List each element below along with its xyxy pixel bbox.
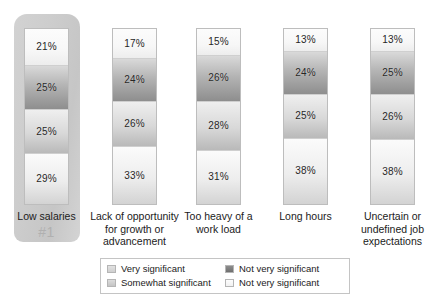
bar-segment[interactable]: 24% xyxy=(113,59,156,101)
category-label-line: undefined job xyxy=(348,223,437,236)
chart-column[interactable]: 13%24%25%38%Long hours xyxy=(283,0,328,250)
stacked-bar[interactable]: 21%25%25%29% xyxy=(24,28,69,205)
segment-value-label: 33% xyxy=(124,171,144,181)
legend-swatch-icon xyxy=(107,265,116,273)
chart-column[interactable]: 21%25%25%29%Low salaries#1 xyxy=(24,0,69,250)
category-label-line: expectations xyxy=(348,235,437,248)
segment-value-label: 25% xyxy=(36,83,56,93)
legend-label: Somewhat significant xyxy=(121,278,211,288)
stacked-bar[interactable]: 13%25%26%38% xyxy=(370,28,415,205)
segment-value-label: 31% xyxy=(208,172,228,182)
category-label-line: Lack of opportunity xyxy=(90,210,179,223)
bar-segment[interactable]: 33% xyxy=(113,147,156,204)
stacked-bar[interactable]: 15%26%28%31% xyxy=(196,28,241,205)
bar-segment[interactable]: 21% xyxy=(25,29,68,66)
bar-segment[interactable]: 13% xyxy=(371,29,414,52)
legend-item[interactable]: Not very significant xyxy=(225,276,343,290)
category-label: Lack of opportunityfor growth oradvancem… xyxy=(90,210,179,248)
segment-value-label: 24% xyxy=(124,75,144,85)
bar-segment[interactable]: 29% xyxy=(25,154,68,204)
segment-value-label: 21% xyxy=(36,42,56,52)
category-label-line: Long hours xyxy=(261,210,350,223)
bar-segment[interactable]: 17% xyxy=(113,29,156,59)
bar-segment[interactable]: 28% xyxy=(197,102,240,151)
segment-value-label: 26% xyxy=(124,119,144,129)
legend-label: Not very significant xyxy=(239,278,319,288)
legend-label: Very significant xyxy=(121,264,185,274)
legend-swatch-icon xyxy=(225,265,234,273)
stacked-bar[interactable]: 17%24%26%33% xyxy=(112,28,157,205)
segment-value-label: 28% xyxy=(208,121,228,131)
chart-columns: 21%25%25%29%Low salaries#117%24%26%33%La… xyxy=(0,0,447,250)
legend-item[interactable]: Not very significant xyxy=(225,262,343,276)
segment-value-label: 26% xyxy=(208,73,228,83)
category-label: Low salaries xyxy=(2,210,91,223)
legend-label: Not very significant xyxy=(239,264,319,274)
bar-segment[interactable]: 26% xyxy=(113,102,156,148)
bar-segment[interactable]: 15% xyxy=(197,29,240,56)
bar-segment[interactable]: 25% xyxy=(25,110,68,154)
legend-item[interactable]: Somewhat significant xyxy=(107,276,225,290)
chart-column[interactable]: 15%26%28%31%Too heavy of awork load xyxy=(196,0,241,250)
bar-segment[interactable]: 25% xyxy=(284,95,327,139)
chart-column[interactable]: 13%25%26%38%Uncertain orundefined jobexp… xyxy=(370,0,415,250)
bar-segment[interactable]: 38% xyxy=(371,140,414,204)
segment-value-label: 15% xyxy=(208,37,228,47)
category-label-line: Uncertain or xyxy=(348,210,437,223)
segment-value-label: 26% xyxy=(382,112,402,122)
chart-column[interactable]: 17%24%26%33%Lack of opportunityfor growt… xyxy=(112,0,157,250)
stacked-bar[interactable]: 13%24%25%38% xyxy=(283,28,328,205)
category-label-line: advancement xyxy=(90,235,179,248)
category-label-line: Too heavy of a xyxy=(174,210,263,223)
category-label-line: Low salaries xyxy=(2,210,91,223)
chart-legend: Very significantNot very significantSome… xyxy=(100,258,350,294)
category-label-line: for growth or xyxy=(90,223,179,236)
legend-swatch-icon xyxy=(107,279,116,287)
segment-value-label: 17% xyxy=(124,39,144,49)
category-label: Too heavy of awork load xyxy=(174,210,263,235)
segment-value-label: 29% xyxy=(36,174,56,184)
segment-value-label: 25% xyxy=(382,68,402,78)
category-label: Uncertain orundefined jobexpectations xyxy=(348,210,437,248)
bar-segment[interactable]: 13% xyxy=(284,29,327,52)
legend-swatch-icon xyxy=(225,279,234,287)
rank-badge: #1 xyxy=(2,225,91,239)
bar-segment[interactable]: 31% xyxy=(197,151,240,204)
segment-value-label: 13% xyxy=(295,35,315,45)
bar-segment[interactable]: 25% xyxy=(371,52,414,95)
bar-segment[interactable]: 25% xyxy=(25,66,68,110)
segment-value-label: 38% xyxy=(295,166,315,176)
category-label-line: work load xyxy=(174,223,263,236)
stacked-bar-chart: 21%25%25%29%Low salaries#117%24%26%33%La… xyxy=(0,0,447,307)
legend-item[interactable]: Very significant xyxy=(107,262,225,276)
segment-value-label: 25% xyxy=(295,111,315,121)
bar-segment[interactable]: 38% xyxy=(284,139,327,204)
bar-segment[interactable]: 26% xyxy=(371,95,414,140)
bar-segment[interactable]: 24% xyxy=(284,52,327,94)
segment-value-label: 24% xyxy=(295,68,315,78)
segment-value-label: 38% xyxy=(382,167,402,177)
segment-value-label: 13% xyxy=(382,35,402,45)
category-label: Long hours xyxy=(261,210,350,223)
bar-segment[interactable]: 26% xyxy=(197,56,240,102)
segment-value-label: 25% xyxy=(36,127,56,137)
